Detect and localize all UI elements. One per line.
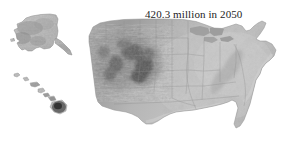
- hawaii-inset: [10, 66, 90, 121]
- conterminous-us-relief: [84, 14, 284, 136]
- conterminous-us-map: [84, 14, 284, 136]
- hawaii-relief: [10, 66, 90, 121]
- population-annotation-label: 420.3 million in 2050: [145, 8, 242, 21]
- map-stage: [0, 0, 291, 144]
- alaska-inset: [8, 8, 88, 63]
- alaska-relief: [8, 8, 88, 63]
- us-population-map-figure: 420.3 million in 2050: [0, 0, 291, 144]
